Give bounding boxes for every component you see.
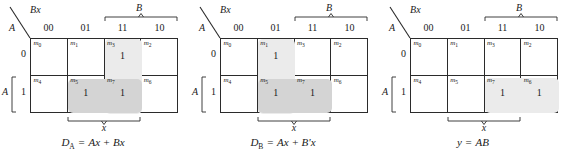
kmap-cell-m5[interactable]: m51 bbox=[258, 76, 295, 113]
minterm-label-m7: m7 bbox=[107, 76, 115, 85]
cell-value-m5: 1 bbox=[68, 87, 104, 98]
cell-value-m7: 1 bbox=[105, 87, 141, 98]
kmap-cell-m6[interactable]: m61 bbox=[521, 76, 557, 113]
kmap-cell-m7[interactable]: m71 bbox=[485, 76, 522, 113]
kmap-grid: m0m11m3m2m4m51m71m6 bbox=[220, 38, 368, 113]
kmap-map-db: BxAB00011110m0m11m3m2m4m51m71m60A1xDB = … bbox=[190, 0, 376, 158]
corner-row-variable-label: A bbox=[9, 22, 15, 33]
column-headers: 00011110 bbox=[220, 21, 368, 35]
kmap-cell-m0[interactable]: m0 bbox=[31, 39, 68, 75]
row-group-label-a: A bbox=[2, 86, 8, 97]
column-header-10: 10 bbox=[521, 21, 558, 35]
column-group-label-b: B bbox=[326, 2, 332, 13]
minterm-label-m3: m3 bbox=[487, 39, 495, 48]
minterm-label-m4: m4 bbox=[414, 76, 422, 85]
column-header-00: 00 bbox=[220, 21, 257, 35]
corner-column-variable-label: Bx bbox=[30, 4, 41, 15]
kmap-cell-m0[interactable]: m0 bbox=[221, 39, 258, 75]
minterm-label-m6: m6 bbox=[334, 76, 342, 85]
row-label-1: 1 bbox=[203, 86, 216, 97]
row-label-0: 0 bbox=[382, 48, 406, 59]
kmap-cell-m0[interactable]: m0 bbox=[411, 39, 448, 75]
cell-value-m3: 1 bbox=[105, 50, 141, 61]
column-header-00: 00 bbox=[30, 21, 67, 35]
kmap-cell-m6[interactable]: m6 bbox=[141, 76, 177, 113]
row-label-0: 0 bbox=[2, 48, 26, 59]
kmap-cell-m7[interactable]: m71 bbox=[295, 76, 332, 113]
row-label-1: 1 bbox=[393, 86, 406, 97]
kmap-row-0: m0m1m31m2 bbox=[31, 39, 177, 76]
column-header-00: 00 bbox=[410, 21, 447, 35]
minterm-label-m6: m6 bbox=[144, 76, 152, 85]
kmap-cell-m3[interactable]: m31 bbox=[105, 39, 142, 75]
column-group-label-x: x bbox=[190, 122, 398, 133]
kmap-grid: m0m1m31m2m4m51m71m6 bbox=[30, 38, 178, 113]
column-group-label-x: x bbox=[0, 122, 208, 133]
column-header-01: 01 bbox=[257, 21, 294, 35]
corner-row-variable-label: A bbox=[389, 22, 395, 33]
kmap-cell-m1[interactable]: m1 bbox=[68, 39, 105, 75]
karnaugh-map-figure: BxAB00011110m0m1m31m2m4m51m71m60A1xDA = … bbox=[0, 0, 566, 158]
row-label-1: 1 bbox=[13, 86, 26, 97]
row-group-label-a: A bbox=[382, 86, 388, 97]
minterm-label-m0: m0 bbox=[224, 39, 232, 48]
column-header-11: 11 bbox=[294, 21, 331, 35]
kmap-cell-m1[interactable]: m11 bbox=[258, 39, 295, 75]
minterm-label-m6: m6 bbox=[524, 76, 532, 85]
column-header-10: 10 bbox=[141, 21, 178, 35]
column-headers: 00011110 bbox=[30, 21, 178, 35]
column-group-label-b: B bbox=[136, 2, 142, 13]
kmap-row-1: m4m51m71m6 bbox=[31, 76, 177, 113]
minterm-label-m3: m3 bbox=[297, 39, 305, 48]
column-header-11: 11 bbox=[484, 21, 521, 35]
kmap-cell-m4[interactable]: m4 bbox=[31, 76, 68, 113]
kmap-formula-map-da: DA = Ax + Bx bbox=[0, 136, 186, 151]
kmap-row-0: m0m1m3m2 bbox=[411, 39, 557, 76]
minterm-label-m0: m0 bbox=[34, 39, 42, 48]
minterm-label-m5: m5 bbox=[260, 76, 268, 85]
kmap-cell-m2[interactable]: m2 bbox=[331, 39, 367, 75]
minterm-label-m5: m5 bbox=[450, 76, 458, 85]
minterm-label-m3: m3 bbox=[107, 39, 115, 48]
kmap-cell-m5[interactable]: m51 bbox=[68, 76, 105, 113]
kmap-row-1: m4m5m71m61 bbox=[411, 76, 557, 113]
kmap-cell-m2[interactable]: m2 bbox=[521, 39, 557, 75]
kmap-cell-m3[interactable]: m3 bbox=[485, 39, 522, 75]
kmap-cell-m2[interactable]: m2 bbox=[141, 39, 177, 75]
kmap-cell-m1[interactable]: m1 bbox=[448, 39, 485, 75]
cell-value-m6: 1 bbox=[521, 87, 557, 98]
minterm-label-m7: m7 bbox=[297, 76, 305, 85]
cell-value-m7: 1 bbox=[485, 87, 521, 98]
kmap-cell-m6[interactable]: m6 bbox=[331, 76, 367, 113]
kmap-cell-m3[interactable]: m3 bbox=[295, 39, 332, 75]
column-header-10: 10 bbox=[331, 21, 368, 35]
row-group-label-a: A bbox=[192, 86, 198, 97]
column-header-01: 01 bbox=[67, 21, 104, 35]
kmap-cell-m5[interactable]: m5 bbox=[448, 76, 485, 113]
kmap-grid: m0m1m3m2m4m5m71m61 bbox=[410, 38, 558, 113]
cell-value-m7: 1 bbox=[295, 87, 331, 98]
column-group-label-b: B bbox=[516, 2, 522, 13]
kmap-row-1: m4m51m71m6 bbox=[221, 76, 367, 113]
minterm-label-m2: m2 bbox=[524, 39, 532, 48]
minterm-label-m2: m2 bbox=[334, 39, 342, 48]
kmap-map-y: BxAB00011110m0m1m3m2m4m5m71m610A1xy = AB bbox=[380, 0, 566, 158]
row-label-0: 0 bbox=[192, 48, 216, 59]
minterm-label-m7: m7 bbox=[487, 76, 495, 85]
kmap-cell-m7[interactable]: m71 bbox=[105, 76, 142, 113]
minterm-label-m1: m1 bbox=[450, 39, 458, 48]
kmap-formula-map-db: DB = Ax + B'x bbox=[190, 136, 376, 151]
column-header-01: 01 bbox=[447, 21, 484, 35]
corner-row-variable-label: A bbox=[199, 22, 205, 33]
kmap-map-da: BxAB00011110m0m1m31m2m4m51m71m60A1xDA = … bbox=[0, 0, 186, 158]
corner-column-variable-label: Bx bbox=[410, 4, 421, 15]
minterm-label-m4: m4 bbox=[34, 76, 42, 85]
kmap-cell-m4[interactable]: m4 bbox=[221, 76, 258, 113]
kmap-cell-m4[interactable]: m4 bbox=[411, 76, 448, 113]
column-header-11: 11 bbox=[104, 21, 141, 35]
kmap-formula-map-y: y = AB bbox=[380, 136, 566, 148]
column-group-label-x: x bbox=[380, 122, 566, 133]
minterm-label-m0: m0 bbox=[414, 39, 422, 48]
minterm-label-m2: m2 bbox=[144, 39, 152, 48]
column-headers: 00011110 bbox=[410, 21, 558, 35]
